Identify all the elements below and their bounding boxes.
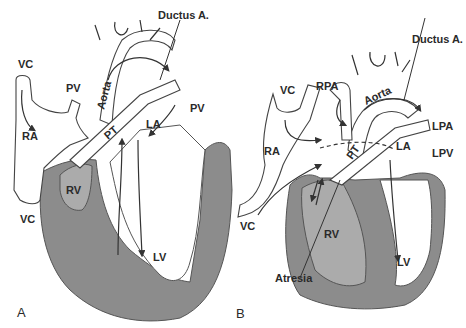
panel-a-label-ductus: Ductus A. xyxy=(158,9,209,21)
panel-a-label-vc-top: VC xyxy=(18,58,33,70)
panel-b-ductus-pointer xyxy=(404,18,425,100)
panel-a-label-vc-bottom: VC xyxy=(20,213,35,225)
panel-b: Ductus A. RPA VC Aorta LPA RA PT LA LPV … xyxy=(236,18,463,321)
heart-diagram: Ductus A. VC PV PV Aorta RA PT LA RV VC … xyxy=(0,0,466,328)
panel-b-label-rv: RV xyxy=(324,228,340,240)
panel-b-letter: B xyxy=(236,306,245,321)
panel-a-letter: A xyxy=(17,305,26,320)
panel-a-label-lv: LV xyxy=(153,251,167,263)
panel-a-label-la: LA xyxy=(146,118,161,130)
panel-b-label-lpv: LPV xyxy=(432,147,454,159)
panel-b-head-vessels xyxy=(352,52,410,75)
panel-a-label-pv-right: PV xyxy=(190,102,205,114)
panel-b-label-vc-top: VC xyxy=(280,84,295,96)
panel-b-label-ductus: Ductus A. xyxy=(412,33,463,45)
panel-a-label-rv: RV xyxy=(66,184,82,196)
panel-a: Ductus A. VC PV PV Aorta RA PT LA RV VC … xyxy=(14,9,232,321)
panel-b-label-ra: RA xyxy=(264,145,280,157)
panel-a-ductus-pointer xyxy=(160,20,180,80)
panel-a-label-ra: RA xyxy=(22,130,38,142)
panel-a-label-pv-left: PV xyxy=(66,82,81,94)
panel-b-label-lpa: LPA xyxy=(432,120,453,132)
panel-b-label-lv: LV xyxy=(397,256,411,268)
panel-b-label-atresia: Atresia xyxy=(275,272,313,284)
panel-b-label-la: LA xyxy=(396,140,411,152)
panel-b-label-vc-bottom: VC xyxy=(240,220,255,232)
panel-b-label-rpa: RPA xyxy=(316,80,338,92)
